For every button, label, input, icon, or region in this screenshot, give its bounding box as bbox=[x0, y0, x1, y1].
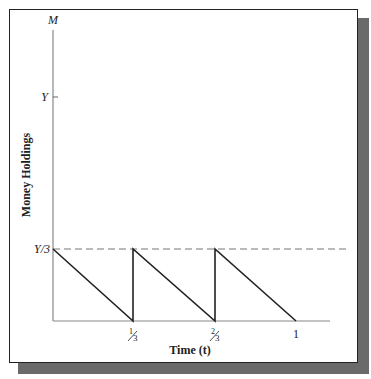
money-holdings-line bbox=[53, 249, 296, 321]
x-tick-label-two-thirds: 2 3 bbox=[210, 327, 220, 343]
y-axis-title: Money Holdings bbox=[19, 133, 33, 218]
y-axis-top-label: M bbox=[47, 13, 59, 27]
x-axis-title: Time (t) bbox=[169, 343, 210, 357]
x-tick-label-one-third: 1 3 bbox=[128, 327, 138, 343]
svg-text:3: 3 bbox=[133, 333, 138, 343]
y-tick-label-Y: Y bbox=[41, 90, 49, 104]
y-tick-label-Y3: Y/3 bbox=[34, 242, 50, 256]
chart-svg: M Y Y/3 Money Holdings 1 3 2 3 1 Time (t… bbox=[0, 0, 371, 379]
svg-text:3: 3 bbox=[215, 333, 220, 343]
x-tick-label-one: 1 bbox=[293, 327, 299, 341]
